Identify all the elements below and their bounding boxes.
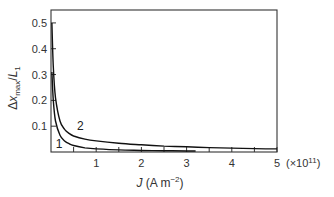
x-tick-label: 5 xyxy=(274,157,280,169)
data-series xyxy=(52,23,277,151)
curve-1 xyxy=(52,72,196,151)
x-tick-label: 4 xyxy=(229,157,235,169)
y-tick-label: 0.2 xyxy=(32,94,47,106)
y-tick-label: 0.5 xyxy=(32,17,47,29)
y-tick-label: 0.3 xyxy=(32,69,47,81)
x-axis-label: J (A m−2) xyxy=(135,175,183,190)
x-tick-label: 3 xyxy=(184,157,190,169)
x-multiplier: (×1011) xyxy=(286,156,320,169)
plot-border xyxy=(51,10,277,152)
plot-frame xyxy=(51,10,277,152)
y-axis-label: Δxmax/L1 xyxy=(6,66,22,110)
curve-label-2: 2 xyxy=(77,119,84,133)
curve-label-1: 1 xyxy=(56,137,63,151)
chart: 123450.10.20.30.40.512(×1011)J (A m−2)Δx… xyxy=(0,0,334,197)
y-tick-label: 0.1 xyxy=(32,120,47,132)
axis-ticks xyxy=(51,23,277,152)
x-tick-label: 1 xyxy=(93,157,99,169)
curve-2 xyxy=(52,23,277,149)
y-tick-label: 0.4 xyxy=(32,43,47,55)
x-tick-label: 2 xyxy=(138,157,144,169)
